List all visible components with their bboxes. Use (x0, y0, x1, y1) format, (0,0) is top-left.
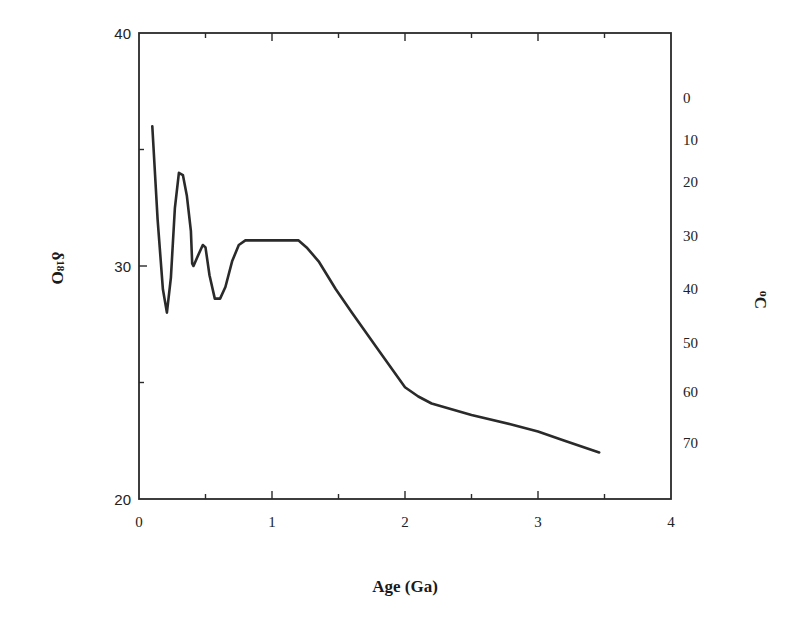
right-y-tick-label: 50 (683, 335, 698, 351)
x-tick-label: 3 (534, 514, 542, 530)
right-y-tick-label: 30 (683, 228, 698, 244)
x-tick-label: 1 (268, 514, 276, 530)
right-y-tick-label: 70 (683, 435, 698, 451)
y-axis-title: δ18O (48, 251, 67, 284)
y-tick-label: 40 (114, 25, 131, 42)
svg-text:δ18O: δ18O (48, 251, 67, 284)
x-tick-label: 4 (667, 514, 675, 530)
right-y-tick-label: 20 (683, 174, 698, 190)
x-axis-title: Age (Ga) (372, 577, 438, 596)
x-tick-label: 2 (401, 514, 409, 530)
right-y-axis-title: oC (751, 291, 771, 309)
plot-frame (139, 33, 671, 499)
right-y-tick-label: 40 (683, 281, 698, 297)
x-tick-label: 0 (135, 514, 143, 530)
chart: 01234 203040 010203040506070 Age (Ga) δ1… (0, 0, 799, 624)
svg-text:oC: oC (751, 291, 771, 309)
y-tick-label: 30 (114, 258, 131, 275)
right-y-tick-label: 60 (683, 384, 698, 400)
x-tick-labels: 01234 (135, 514, 675, 530)
right-y-tick-label: 10 (683, 132, 698, 148)
right-y-tick-label: 0 (683, 90, 691, 106)
d18o-curve (152, 126, 599, 452)
y-tick-labels: 203040 (114, 25, 131, 508)
y-tick-label: 20 (114, 491, 131, 508)
right-y-tick-labels: 010203040506070 (683, 90, 698, 451)
